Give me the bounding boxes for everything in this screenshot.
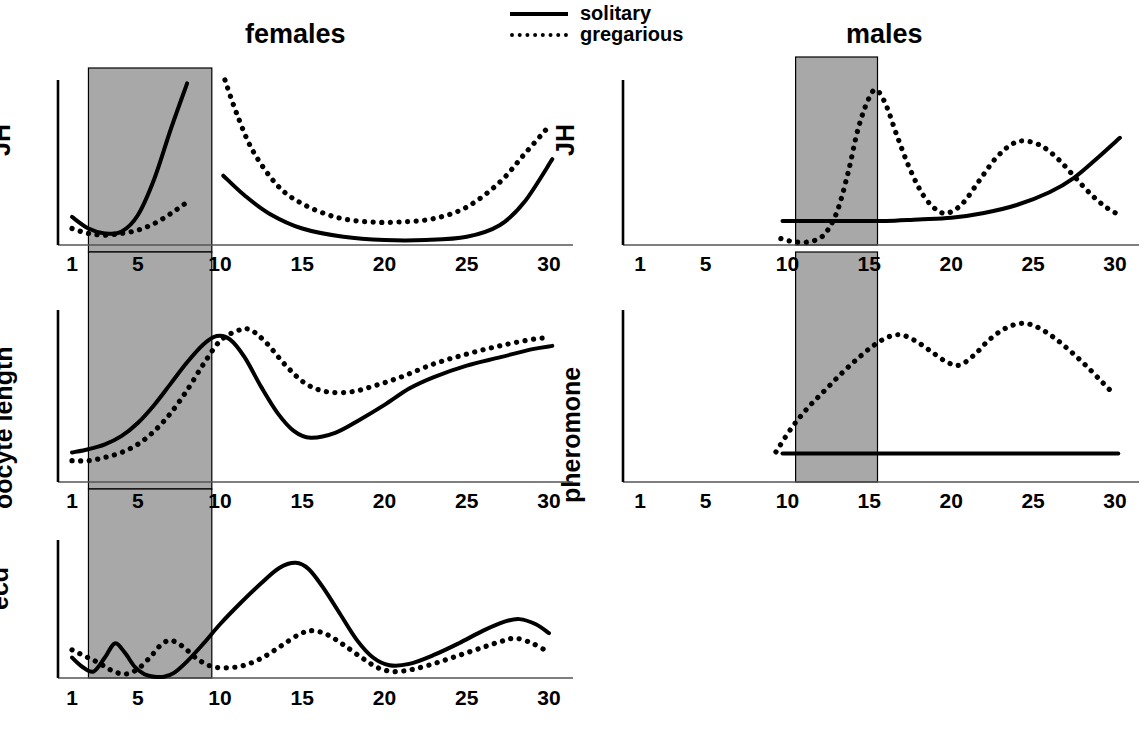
shaded-region (796, 252, 878, 482)
x-tick-label: 5 (132, 252, 144, 276)
x-tick-label: 15 (858, 489, 881, 513)
x-tick-label: 30 (537, 252, 560, 276)
x-tick-label: 5 (700, 489, 712, 513)
x-tick-label: 20 (373, 252, 396, 276)
x-tick-label: 25 (455, 252, 478, 276)
x-tick-label: 25 (455, 686, 478, 710)
x-tick-label: 5 (132, 686, 144, 710)
x-tick-label: 20 (373, 686, 396, 710)
x-tick-label: 15 (291, 686, 314, 710)
chart-panel-males-jh (623, 57, 1139, 245)
x-tick-label: 10 (208, 686, 231, 710)
x-tick-label: 15 (291, 252, 314, 276)
plot-surface (0, 0, 1144, 737)
chart-panel-females-ecd (58, 489, 573, 678)
x-tick-label: 30 (537, 686, 560, 710)
series-line-gregarious-seg1 (225, 80, 549, 222)
series-line-solitary-seg1 (223, 159, 552, 240)
x-tick-label: 1 (66, 252, 78, 276)
x-tick-label: 10 (208, 489, 231, 513)
x-tick-label: 20 (373, 489, 396, 513)
x-tick-label: 20 (940, 489, 963, 513)
x-tick-label: 30 (1103, 252, 1126, 276)
x-tick-label: 1 (634, 252, 646, 276)
x-tick-label: 25 (455, 489, 478, 513)
x-tick-label: 1 (66, 489, 78, 513)
x-tick-label: 5 (132, 489, 144, 513)
x-tick-label: 25 (1021, 489, 1044, 513)
chart-panel-females-oocyte-length (58, 252, 573, 489)
x-tick-label: 30 (1103, 489, 1126, 513)
x-tick-label: 25 (1021, 252, 1044, 276)
x-tick-label: 10 (776, 252, 799, 276)
chart-panel-males-pheromone (623, 252, 1139, 482)
x-tick-label: 1 (634, 489, 646, 513)
x-tick-label: 20 (940, 252, 963, 276)
shaded-region (88, 489, 211, 678)
x-tick-label: 15 (291, 489, 314, 513)
x-tick-label: 10 (208, 252, 231, 276)
x-tick-label: 5 (700, 252, 712, 276)
x-tick-label: 15 (858, 252, 881, 276)
shaded-region (88, 68, 211, 252)
chart-panel-females-jh (58, 68, 573, 252)
x-tick-label: 10 (776, 489, 799, 513)
figure-root: females males solitary gregarious JH ooc… (0, 0, 1144, 737)
x-tick-label: 1 (66, 686, 78, 710)
x-tick-label: 30 (537, 489, 560, 513)
shaded-region (88, 252, 211, 489)
